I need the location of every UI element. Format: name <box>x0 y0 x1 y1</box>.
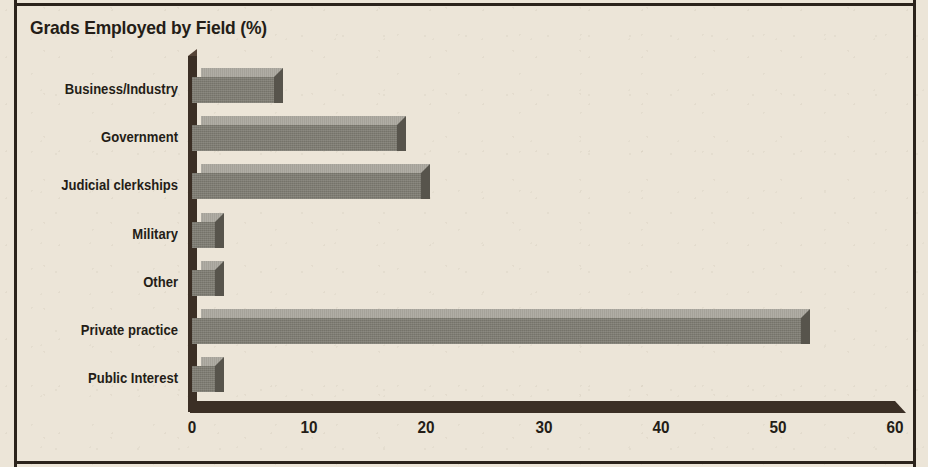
bar-side-bevel <box>397 116 406 125</box>
bar-front-face <box>192 366 215 392</box>
bar-side-bevel <box>215 261 224 270</box>
bar-side-face <box>215 366 224 392</box>
bar-side-bevel <box>215 213 224 222</box>
bar-side-bevel <box>421 164 430 173</box>
bar-front-face <box>192 77 274 103</box>
category-label: Government <box>18 129 178 145</box>
bar-side-face <box>421 173 430 199</box>
y-axis-top-face <box>188 49 197 56</box>
bar-public-interest <box>192 357 224 392</box>
bar-side-face <box>801 318 810 344</box>
category-label: Judicial clerkships <box>18 177 178 193</box>
x-tick-label: 60 <box>868 418 922 438</box>
plot-area: Business/IndustryGovernmentJudicial cler… <box>0 0 928 467</box>
x-axis-end-cap <box>895 401 906 413</box>
bar-front-face <box>192 222 215 248</box>
bar-side-bevel <box>215 357 224 366</box>
chart-page: Grads Employed by Field (%) Business/Ind… <box>0 0 928 467</box>
bar-side-bevel <box>801 309 810 318</box>
bar-side-face <box>215 270 224 296</box>
category-label: Private practice <box>18 322 178 338</box>
x-tick-label: 0 <box>165 418 219 438</box>
category-label: Business/Industry <box>18 81 178 97</box>
bar-top-face <box>201 116 406 125</box>
bar-government <box>192 116 406 151</box>
bar-judicial-clerkships <box>192 164 430 199</box>
x-tick-label: 50 <box>751 418 805 438</box>
bar-private-practice <box>192 309 810 344</box>
bar-side-face <box>215 222 224 248</box>
x-tick-label: 20 <box>399 418 453 438</box>
bar-front-face <box>192 173 421 199</box>
x-tick-label: 40 <box>634 418 688 438</box>
category-label: Public Interest <box>18 370 178 386</box>
category-label: Military <box>18 226 178 242</box>
bar-top-face <box>201 68 283 77</box>
bar-side-face <box>274 77 283 103</box>
bar-side-face <box>397 125 406 151</box>
x-tick-label: 30 <box>517 418 571 438</box>
bar-military <box>192 213 224 248</box>
category-label: Other <box>18 274 178 290</box>
bar-front-face <box>192 318 801 344</box>
bar-other <box>192 261 224 296</box>
x-tick-label: 10 <box>282 418 336 438</box>
bar-business-industry <box>192 68 283 103</box>
bar-top-face <box>201 164 430 173</box>
bar-front-face <box>192 125 397 151</box>
x-axis <box>190 401 895 413</box>
bar-side-bevel <box>274 68 283 77</box>
bar-top-face <box>201 309 810 318</box>
bar-front-face <box>192 270 215 296</box>
